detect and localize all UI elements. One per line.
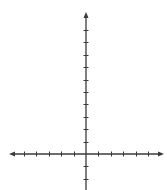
coordinate-plane bbox=[0, 0, 167, 190]
arrow-up-icon bbox=[84, 12, 89, 18]
arrow-right-icon bbox=[158, 152, 164, 157]
arrow-left-icon bbox=[9, 152, 15, 157]
